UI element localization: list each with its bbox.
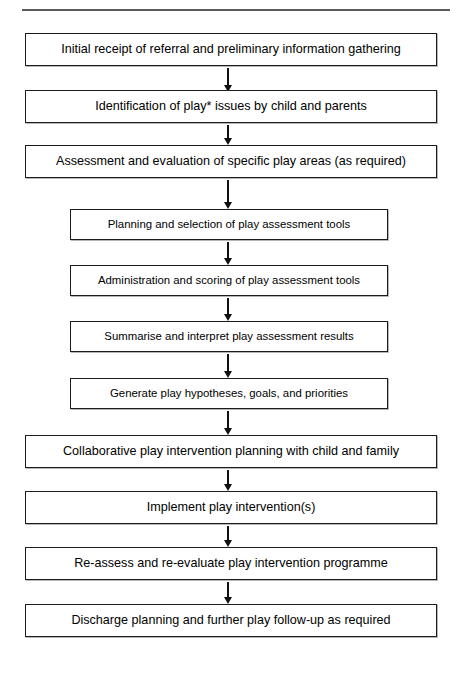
flow-node-label: Administration and scoring of play asses… (94, 274, 364, 287)
down-arrow-icon-6 (227, 354, 229, 372)
flow-node-planning-and-selection: Planning and selection of play assessmen… (70, 209, 388, 240)
flow-node-initial-receipt: Initial receipt of referral and prelimin… (25, 33, 437, 66)
flow-node-label: Identification of play* issues by child … (91, 99, 371, 113)
flow-node-collaborative-planning: Collaborative play intervention planning… (25, 435, 437, 468)
down-arrow-icon-3 (227, 180, 229, 203)
down-arrow-icon-7 (227, 411, 229, 429)
down-arrow-icon-2 (227, 125, 229, 139)
down-arrow-icon-8 (227, 470, 229, 485)
flowchart-diagram: Initial receipt of referral and prelimin… (0, 0, 462, 676)
down-arrow-icon-4 (227, 242, 229, 259)
down-arrow-icon-9 (227, 526, 229, 541)
flow-node-label: Discharge planning and further play foll… (67, 613, 394, 627)
flow-node-generate-play-hypotheses: Generate play hypotheses, goals, and pri… (70, 378, 388, 409)
down-arrow-icon-10 (227, 582, 229, 598)
flow-node-label: Re-assess and re-evaluate play intervent… (70, 556, 392, 570)
flow-node-label: Initial receipt of referral and prelimin… (57, 42, 405, 56)
flow-node-re-assess-and-re-evaluate: Re-assess and re-evaluate play intervent… (25, 547, 437, 580)
flow-node-discharge-planning: Discharge planning and further play foll… (25, 604, 437, 637)
flow-node-implement-play-intervention: Implement play intervention(s) (25, 491, 437, 524)
flow-node-label: Collaborative play intervention planning… (59, 444, 403, 458)
flow-node-summarise-and-interpret: Summarise and interpret play assessment … (70, 321, 388, 352)
flow-node-label: Planning and selection of play assessmen… (104, 218, 355, 231)
down-arrow-icon-1 (227, 68, 229, 86)
flow-node-label: Assessment and evaluation of specific pl… (52, 154, 410, 168)
down-arrow-icon-5 (227, 298, 229, 315)
flow-node-administration-and-scoring: Administration and scoring of play asses… (70, 265, 388, 296)
top-divider-rule (22, 9, 450, 11)
flow-node-assessment-and-evaluation: Assessment and evaluation of specific pl… (25, 145, 437, 178)
flow-node-identification-of-play-issues: Identification of play* issues by child … (25, 90, 437, 123)
flow-node-label: Implement play intervention(s) (143, 500, 320, 514)
flow-node-label: Summarise and interpret play assessment … (100, 330, 357, 343)
flow-node-label: Generate play hypotheses, goals, and pri… (106, 387, 352, 400)
